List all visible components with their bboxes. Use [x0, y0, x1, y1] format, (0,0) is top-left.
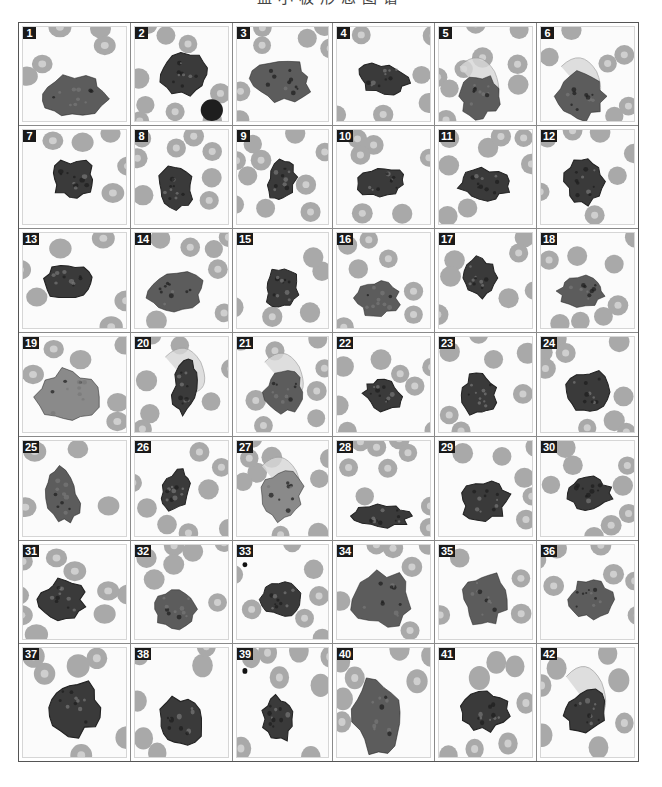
micrograph-image: [22, 336, 127, 433]
red-blood-cell: [337, 356, 354, 377]
panel-30: 30: [537, 437, 638, 541]
red-blood-cell: [237, 82, 250, 102]
micrograph-image: [438, 544, 533, 640]
micrograph-image: [336, 647, 431, 758]
red-blood-cell: [614, 45, 634, 65]
red-blood-cell: [272, 526, 290, 536]
red-blood-cell: [439, 605, 450, 625]
red-blood-cell: [525, 282, 532, 300]
micrograph-image: [236, 647, 329, 758]
red-blood-cell: [23, 260, 31, 280]
micrograph-image: [22, 544, 127, 640]
red-blood-cell: [389, 648, 409, 661]
lymphocyte: [201, 99, 223, 121]
red-blood-cell: [115, 726, 126, 749]
platelet-cell: [155, 694, 206, 747]
red-blood-cell: [511, 604, 532, 624]
red-blood-cell: [114, 337, 126, 354]
red-blood-cell: [356, 487, 374, 505]
red-blood-cell: [135, 68, 149, 88]
red-blood-cell: [242, 600, 262, 620]
panel-13: 13: [19, 229, 131, 333]
panel-34: 34: [333, 541, 435, 644]
red-blood-cell: [303, 247, 323, 267]
red-blood-cell: [452, 422, 471, 432]
red-blood-cell: [183, 130, 204, 146]
panel-7: 7: [19, 126, 131, 229]
red-blood-cell: [310, 469, 328, 488]
red-blood-cell: [98, 496, 120, 515]
panel-number-badge: 40: [337, 648, 353, 660]
red-blood-cell: [609, 337, 630, 352]
panel-11: 11: [435, 126, 537, 229]
panel-number-badge: 38: [135, 648, 151, 660]
red-blood-cell: [523, 487, 532, 505]
red-blood-cell: [509, 244, 528, 263]
red-blood-cell: [150, 233, 170, 249]
red-blood-cell: [23, 605, 33, 625]
red-blood-cell: [200, 191, 219, 210]
red-blood-cell: [567, 246, 587, 266]
micrograph-image: [540, 129, 635, 225]
micrograph-image: [134, 232, 229, 329]
panel-number-badge: 35: [439, 545, 455, 557]
red-blood-cell: [219, 519, 228, 536]
red-blood-cell: [512, 569, 531, 587]
red-blood-cell: [23, 586, 29, 604]
red-blood-cell: [315, 359, 328, 377]
red-blood-cell: [256, 199, 275, 218]
panel-3: 3: [233, 23, 333, 126]
panel-17: 17: [435, 229, 537, 333]
red-blood-cell: [624, 144, 634, 163]
platelet-cell: [42, 261, 96, 302]
red-blood-cell: [625, 233, 634, 248]
red-blood-cell: [541, 48, 559, 66]
micrograph-image: [134, 129, 229, 225]
panel-number-badge: 2: [135, 27, 148, 39]
red-blood-cell: [550, 314, 569, 328]
micrograph-image: [134, 440, 229, 537]
micrograph-image: [336, 544, 431, 640]
micrograph-image: [236, 336, 329, 433]
red-blood-cell: [258, 648, 277, 664]
platelet-cell: [259, 582, 300, 617]
red-blood-cell: [313, 629, 328, 639]
micrograph-image: [22, 647, 127, 758]
panel-32: 32: [131, 541, 233, 644]
red-blood-cell: [378, 459, 397, 478]
red-blood-cell: [137, 498, 157, 518]
red-blood-cell: [543, 576, 564, 596]
panel-10: 10: [333, 126, 435, 229]
red-blood-cell: [412, 66, 430, 84]
platelet-cell: [40, 463, 84, 526]
micrograph-image: [134, 647, 229, 758]
red-blood-cell: [304, 560, 323, 579]
red-blood-cell: [439, 304, 448, 325]
red-blood-cell: [117, 157, 126, 176]
red-blood-cell: [419, 93, 430, 113]
red-blood-cell: [466, 27, 486, 34]
platelet-cell: [351, 570, 411, 627]
panel-number-badge: 42: [541, 648, 557, 660]
red-blood-cell: [508, 55, 528, 75]
red-blood-cell: [94, 36, 116, 55]
red-blood-cell: [628, 606, 634, 625]
red-blood-cell: [300, 202, 320, 222]
micrograph-image: [438, 232, 533, 329]
panel-number-badge: 39: [237, 648, 253, 660]
platelet-cell: [564, 159, 606, 206]
platelet-cell: [567, 476, 613, 511]
red-blood-cell: [360, 233, 378, 249]
red-blood-cell: [585, 205, 605, 224]
red-blood-cell: [198, 479, 219, 499]
red-blood-cell: [406, 669, 427, 693]
red-blood-cell: [114, 290, 126, 311]
red-blood-cell: [508, 74, 529, 94]
panel-number-badge: 1: [23, 27, 36, 39]
red-blood-cell: [72, 133, 94, 152]
red-blood-cell: [383, 545, 403, 558]
red-blood-cell: [68, 441, 89, 458]
platelet-cell: [566, 371, 610, 412]
red-blood-cell: [608, 295, 629, 315]
panel-5: 5: [435, 23, 537, 126]
